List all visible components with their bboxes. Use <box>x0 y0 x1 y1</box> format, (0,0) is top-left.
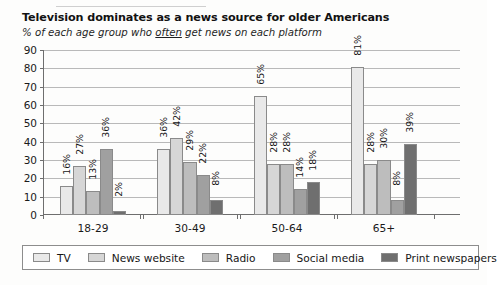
bar[interactable] <box>404 144 417 216</box>
y-tick-label: 40 <box>24 136 37 148</box>
bar-group-bars: 16%27%13%36%2% <box>60 50 126 215</box>
legend-label: TV <box>57 252 71 264</box>
legend-item[interactable]: Social media <box>273 252 365 264</box>
bar[interactable] <box>100 149 113 215</box>
legend-swatch <box>381 253 398 262</box>
legend-item[interactable]: Print newspapers <box>381 252 497 264</box>
y-tick-mark <box>40 68 44 69</box>
bar[interactable] <box>267 164 280 215</box>
x-category-label: 50-64 <box>254 222 320 234</box>
bar[interactable] <box>86 191 99 215</box>
x-category-label: 30-49 <box>157 222 223 234</box>
legend-item[interactable]: Radio <box>202 252 256 264</box>
bar[interactable] <box>210 200 223 215</box>
y-tick-label: 70 <box>24 81 37 93</box>
bar-slot: 28% <box>267 50 280 215</box>
bar-slot: 27% <box>73 50 86 215</box>
bar-group-bars: 81%28%30%8%39% <box>351 50 417 215</box>
legend-swatch <box>33 253 50 262</box>
legend-item[interactable]: TV <box>33 252 71 264</box>
bar[interactable] <box>60 186 73 215</box>
bar[interactable] <box>183 162 196 215</box>
x-tick-mark <box>140 215 141 219</box>
bar-slot: 81% <box>351 50 364 215</box>
bar[interactable] <box>307 182 320 215</box>
bar-slot: 8% <box>391 50 404 215</box>
bar-value-label: 16% <box>61 154 72 174</box>
x-tick-mark <box>337 215 338 219</box>
y-tick-label: 60 <box>24 99 37 111</box>
x-tick-mark <box>334 215 335 219</box>
bar-value-label: 8% <box>391 172 402 186</box>
bar-group: 36%42%29%22%8%30-49 <box>157 50 223 215</box>
bar-value-label: 30% <box>378 128 389 148</box>
chart-subtitle: % of each age group who often get news o… <box>22 27 322 38</box>
bar-value-label: 36% <box>158 117 169 137</box>
bar-slot: 13% <box>86 50 99 215</box>
legend-swatch <box>273 253 290 262</box>
bar[interactable] <box>377 160 390 215</box>
bar-value-label: 28% <box>268 132 279 152</box>
bar-slot: 18% <box>307 50 320 215</box>
bar-value-label: 22% <box>197 143 208 163</box>
x-tick-mark <box>43 215 44 219</box>
bar[interactable] <box>364 164 377 215</box>
bar-value-label: 81% <box>352 35 363 55</box>
x-tick-mark <box>237 215 238 219</box>
y-tick-label: 20 <box>24 172 37 184</box>
bar-slot: 65% <box>254 50 267 215</box>
bar[interactable] <box>351 67 364 216</box>
y-tick-label: 80 <box>24 62 37 74</box>
y-tick-label: 50 <box>24 117 37 129</box>
bar-value-label: 28% <box>365 132 376 152</box>
y-tick-mark <box>40 123 44 124</box>
y-tick-label: 0 <box>30 209 37 221</box>
bar-slot: 28% <box>364 50 377 215</box>
bar-value-label: 18% <box>307 150 318 170</box>
legend-item[interactable]: News website <box>88 252 185 264</box>
bar-slot: 2% <box>113 50 126 215</box>
bar[interactable] <box>197 175 210 215</box>
bar-value-label: 28% <box>281 132 292 152</box>
bar[interactable] <box>294 189 307 215</box>
bar[interactable] <box>254 96 267 215</box>
y-axis <box>43 50 44 215</box>
chart-legend: TVNews websiteRadioSocial mediaPrint new… <box>22 245 479 270</box>
y-tick-mark <box>40 142 44 143</box>
bar[interactable] <box>391 200 404 215</box>
bar-group-bars: 65%28%28%14%18% <box>254 50 320 215</box>
bar-slot: 14% <box>294 50 307 215</box>
bar-group: 81%28%30%8%39%65+ <box>351 50 417 215</box>
bar[interactable] <box>170 138 183 215</box>
bar-value-label: 8% <box>211 172 222 186</box>
legend-label: News website <box>112 252 185 264</box>
bar-value-label: 2% <box>114 183 125 197</box>
bar[interactable] <box>113 211 126 215</box>
y-tick-mark <box>40 178 44 179</box>
x-category-label: 18-29 <box>60 222 126 234</box>
bar-slot: 29% <box>183 50 196 215</box>
bar-slot: 16% <box>60 50 73 215</box>
subtitle-text-after: get news on each platform <box>182 27 322 38</box>
y-tick-label: 30 <box>24 154 37 166</box>
bar[interactable] <box>73 166 86 216</box>
subtitle-emphasis: often <box>155 27 182 38</box>
bar-value-label: 29% <box>184 130 195 150</box>
legend-label: Radio <box>226 252 256 264</box>
subtitle-text-before: % of each age group who <box>22 27 155 38</box>
bar[interactable] <box>280 164 293 215</box>
bar[interactable] <box>157 149 170 215</box>
legend-swatch <box>88 253 105 262</box>
y-tick-mark <box>40 105 44 106</box>
bar-slot: 8% <box>210 50 223 215</box>
bar-value-label: 65% <box>255 64 266 84</box>
bar-slot: 36% <box>157 50 170 215</box>
legend-label: Print newspapers <box>405 252 497 264</box>
bar-group: 65%28%28%14%18%50-64 <box>254 50 320 215</box>
bar-value-label: 14% <box>294 158 305 178</box>
legend-label: Social media <box>297 252 365 264</box>
y-tick-label: 10 <box>24 191 37 203</box>
x-tick-mark <box>434 215 435 219</box>
y-tick-mark <box>40 87 44 88</box>
bar-value-label: 39% <box>404 112 415 132</box>
